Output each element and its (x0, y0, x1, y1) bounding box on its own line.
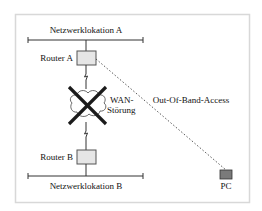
pc-label: PC (220, 181, 231, 191)
router-a-label: Router A (40, 53, 73, 63)
network-location-b-label: Netzwerklokation B (50, 181, 123, 191)
router-b-icon (77, 150, 96, 164)
network-location-a-label: Netzwerklokation A (50, 25, 123, 35)
out-of-band-access-label: Out-Of-Band-Access (153, 95, 230, 105)
router-b-label: Router B (40, 152, 73, 162)
wan-failure-label-line1: WAN- (110, 95, 134, 105)
network-diagram: Netzwerklokation A Router A WAN- Störung… (0, 0, 262, 211)
wan-failure-label-line2: Störung (107, 105, 136, 115)
pc-icon (220, 170, 232, 179)
router-a-icon (77, 51, 96, 65)
